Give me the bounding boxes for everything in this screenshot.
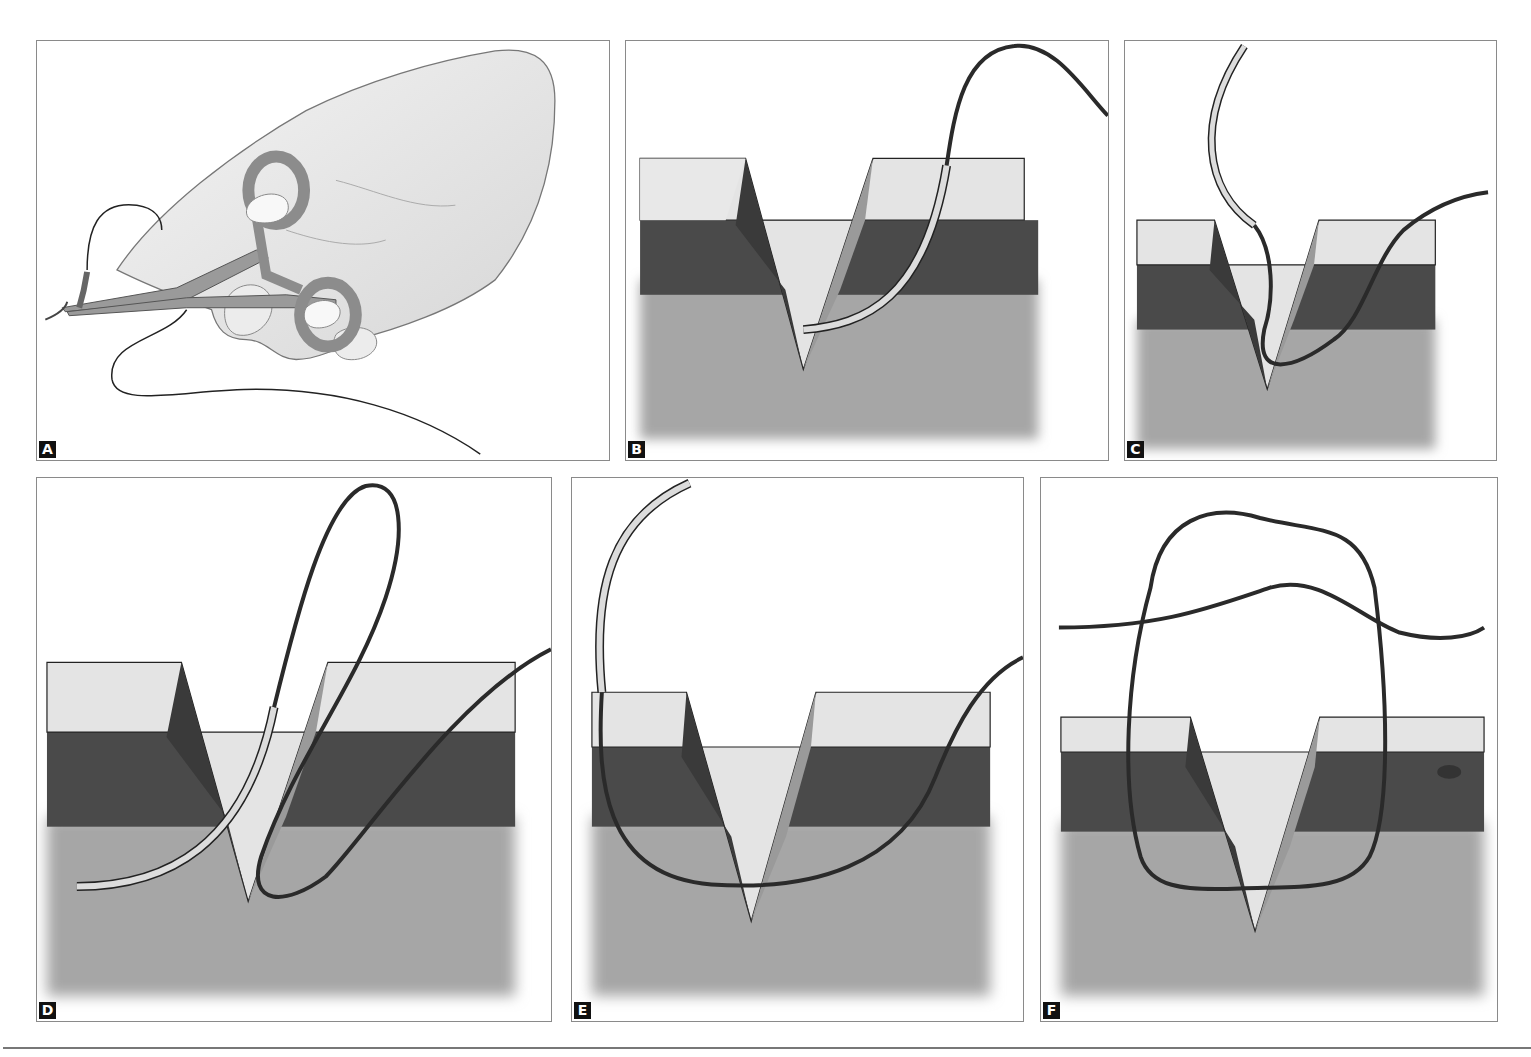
panel-b: B: [625, 40, 1109, 461]
bottom-divider: [3, 1047, 1531, 1049]
hand-needle-driver-illustration: [37, 41, 609, 460]
panel-label-e: E: [574, 1002, 591, 1019]
panel-label-b: B: [628, 441, 645, 458]
tissue-cross-section-f: [1041, 478, 1497, 1021]
panel-label-a: A: [39, 441, 56, 458]
panel-label-f: F: [1043, 1002, 1060, 1019]
tissue-cross-section-b: [626, 41, 1108, 460]
tissue-cross-section-e: [572, 478, 1023, 1021]
panel-e: E: [571, 477, 1024, 1022]
panel-a: A: [36, 40, 610, 461]
panel-label-c: C: [1127, 441, 1144, 458]
panel-c: C: [1124, 40, 1497, 461]
tissue-cross-section-c: [1125, 41, 1496, 460]
tissue-cross-section-d: [37, 478, 551, 1021]
panel-d: D: [36, 477, 552, 1022]
panel-f: F: [1040, 477, 1498, 1022]
panel-label-d: D: [39, 1002, 56, 1019]
